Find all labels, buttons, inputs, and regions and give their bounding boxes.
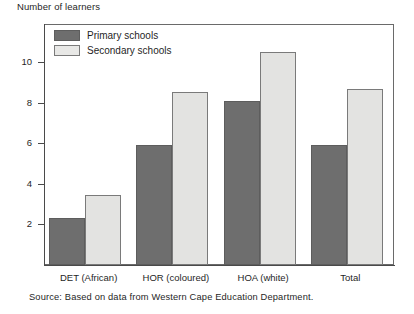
bar-secondary-2	[260, 52, 296, 265]
category-label-2: HOA (white)	[220, 272, 307, 283]
y-tick-2	[38, 224, 44, 225]
secondary-swatch-icon	[54, 45, 80, 56]
y-tick-8	[38, 103, 44, 104]
legend-label-secondary: Secondary schools	[87, 45, 172, 56]
legend-label-primary: Primary schools	[87, 30, 158, 41]
category-label-3: Total	[307, 272, 394, 283]
bar-secondary-1	[172, 92, 208, 265]
y-tick-label-10: 10	[8, 56, 32, 67]
y-tick-label-6: 6	[8, 137, 32, 148]
bar-primary-1	[136, 145, 172, 265]
bar-primary-2	[224, 101, 260, 265]
legend: Primary schools Secondary schools	[54, 29, 172, 59]
bar-chart: Number of learners 246810 DET (African)H…	[0, 0, 414, 314]
legend-item-primary: Primary schools	[54, 29, 172, 42]
y-axis-title: Number of learners	[17, 1, 100, 12]
y-tick-4	[38, 184, 44, 185]
y-tick-label-8: 8	[8, 97, 32, 108]
primary-swatch-icon	[54, 30, 80, 41]
y-tick-label-4: 4	[8, 178, 32, 189]
bar-secondary-0	[85, 195, 121, 265]
y-tick-6	[38, 143, 44, 144]
bar-primary-3	[311, 145, 347, 265]
plot-area	[45, 24, 394, 265]
source-caption: Source: Based on data from Western Cape …	[29, 292, 313, 302]
category-label-1: HOR (coloured)	[132, 272, 219, 283]
y-tick-label-2: 2	[8, 218, 32, 229]
bar-primary-0	[49, 218, 85, 265]
y-tick-10	[38, 62, 44, 63]
x-axis-line	[44, 265, 395, 266]
category-label-0: DET (African)	[45, 272, 132, 283]
legend-item-secondary: Secondary schools	[54, 44, 172, 57]
bar-secondary-3	[347, 89, 383, 265]
